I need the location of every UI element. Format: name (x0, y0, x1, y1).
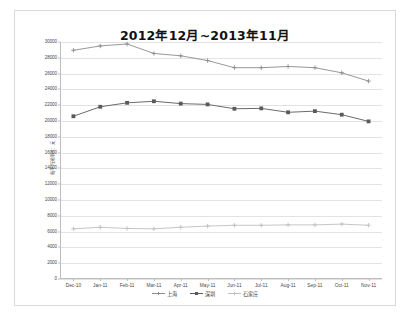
data-point (71, 227, 75, 231)
y-tick-label: 0 (55, 277, 57, 282)
x-tick-label: Jun-11 (227, 284, 241, 289)
data-point (125, 101, 129, 105)
y-tick-label: 10000 (45, 198, 57, 203)
x-tick-label: Nov-11 (361, 284, 376, 289)
x-tick-label: Oct-11 (335, 284, 349, 289)
data-point (367, 119, 371, 123)
chart-legend: 上海深圳石家庄 (15, 290, 395, 297)
x-tick-label: Apr-11 (174, 284, 188, 289)
legend-swatch-icon (228, 291, 241, 296)
data-point (313, 65, 317, 69)
y-tick-label: 6000 (47, 229, 57, 234)
x-tick-mark (369, 279, 370, 281)
data-point (98, 225, 102, 229)
data-point (98, 105, 102, 109)
data-point (340, 222, 344, 226)
data-point (72, 114, 76, 118)
data-point (152, 227, 156, 231)
data-point (313, 109, 317, 113)
x-tick-mark (234, 279, 235, 281)
data-point (286, 110, 290, 114)
data-point (179, 102, 183, 106)
data-point (125, 226, 129, 230)
legend-item-3[interactable]: 石家庄 (228, 290, 258, 297)
y-tick-label: 4000 (47, 245, 57, 250)
legend-item-1[interactable]: 上海 (152, 290, 177, 297)
legend-swatch-icon (152, 291, 165, 296)
data-point (98, 44, 102, 48)
x-tick-label: Mar-11 (146, 284, 161, 289)
y-tick-label: 26000 (45, 71, 57, 76)
data-point (205, 224, 209, 228)
x-tick-label: Dec-10 (66, 284, 81, 289)
series-2 (72, 99, 371, 123)
x-tick-label: May-11 (200, 284, 216, 289)
x-tick-label: Feb-11 (120, 284, 135, 289)
x-tick-mark (342, 279, 343, 281)
data-point (206, 103, 210, 107)
x-tick-mark (288, 279, 289, 281)
legend-label: 深圳 (205, 290, 215, 297)
data-point (340, 113, 344, 117)
data-point (179, 54, 183, 58)
x-tick-mark (208, 279, 209, 281)
y-tick-label: 8000 (47, 214, 57, 219)
data-point (259, 65, 263, 69)
plot-wrap: 0200040006000800010000120001400016000180… (15, 11, 395, 305)
series-1 (71, 42, 371, 84)
x-tick-mark (73, 279, 74, 281)
data-point (259, 223, 263, 227)
y-tick-label: 30000 (45, 40, 57, 45)
data-point (286, 64, 290, 68)
y-tick-label: 2000 (47, 261, 57, 266)
data-point (259, 106, 263, 110)
data-point (152, 51, 156, 55)
x-tick-mark (315, 279, 316, 281)
x-tick-mark (261, 279, 262, 281)
legend-label: 石家庄 (243, 290, 258, 297)
x-tick-mark (154, 279, 155, 281)
plot-area: 0200040006000800010000120001400016000180… (60, 42, 382, 279)
y-tick-label: 14000 (45, 166, 57, 171)
series-line (73, 44, 368, 81)
series-line (73, 224, 368, 229)
series-3 (71, 222, 371, 231)
y-tick-label: 20000 (45, 119, 57, 124)
y-tick-label: 18000 (45, 135, 57, 140)
x-tick-mark (181, 279, 182, 281)
data-point (205, 58, 209, 62)
data-point (232, 223, 236, 227)
y-tick-label: 24000 (45, 87, 57, 92)
x-tick-label: Sep-11 (307, 284, 322, 289)
series-plot (60, 42, 382, 279)
data-point (286, 223, 290, 227)
data-point (152, 99, 156, 103)
data-point (179, 225, 183, 229)
data-point (232, 65, 236, 69)
data-point (366, 223, 370, 227)
x-tick-label: Aug-11 (281, 284, 296, 289)
chart-card: 2012年12月~2013年11月 每平方米单价：元 0200040006000… (14, 10, 396, 306)
series-line (73, 101, 368, 121)
data-point (71, 48, 75, 52)
gridline (60, 279, 382, 280)
data-point (233, 107, 237, 111)
x-tick-mark (100, 279, 101, 281)
y-tick-label: 16000 (45, 150, 57, 155)
legend-item-2[interactable]: 深圳 (190, 290, 215, 297)
x-tick-label: Jan-11 (93, 284, 107, 289)
y-tick-label: 12000 (45, 182, 57, 187)
data-point (313, 223, 317, 227)
data-point (340, 71, 344, 75)
data-point (366, 79, 370, 83)
x-tick-mark (127, 279, 128, 281)
y-tick-label: 28000 (45, 56, 57, 61)
legend-label: 上海 (167, 290, 177, 297)
x-tick-label: Jul-11 (255, 284, 268, 289)
data-point (125, 42, 129, 46)
y-tick-label: 22000 (45, 103, 57, 108)
legend-swatch-icon (190, 291, 203, 296)
